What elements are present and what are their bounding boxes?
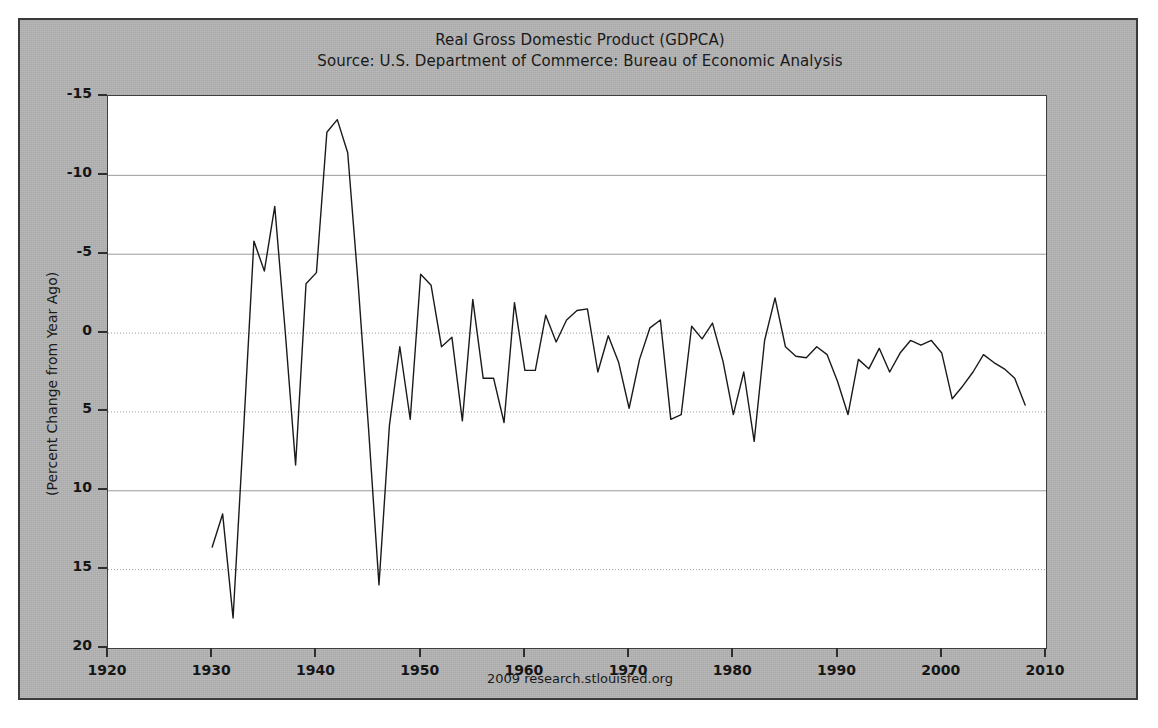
data-line-layer: [108, 96, 1046, 648]
chart-title-block: Real Gross Domestic Product (GDPCA) Sour…: [20, 30, 1140, 72]
xtick-mark-1930: [210, 648, 212, 657]
ytick-mark--10: [98, 567, 107, 569]
ytick-label-15: -10: [37, 164, 92, 180]
ytick-mark-5: [98, 331, 107, 333]
xtick-mark-1920: [106, 648, 108, 657]
ytick-label-20: -15: [37, 85, 92, 101]
data-line-real-gdp: [212, 120, 1025, 618]
xtick-mark-2000: [940, 648, 942, 657]
ytick-label-10: -5: [37, 243, 92, 259]
ytick-mark-0: [98, 409, 107, 411]
ytick-mark-20: [98, 94, 107, 96]
xtick-mark-1990: [836, 648, 838, 657]
ytick-mark-15: [98, 173, 107, 175]
chart-panel: Real Gross Domestic Product (GDPCA) Sour…: [18, 18, 1138, 700]
xtick-mark-1980: [731, 648, 733, 657]
ytick-label--15: 20: [37, 637, 92, 653]
chart-subtitle: Source: U.S. Department of Commerce: Bur…: [20, 51, 1140, 72]
xtick-mark-1970: [627, 648, 629, 657]
page-title: Real Gross Domestic Product (GDPCA): [20, 30, 1140, 51]
chart-screenshot: Real Gross Domestic Product (GDPCA) Sour…: [0, 0, 1158, 728]
chart-footer: 2009 research.stlouisfed.org: [20, 671, 1140, 686]
xtick-mark-1940: [314, 648, 316, 657]
ytick-label--10: 15: [37, 558, 92, 574]
y-axis-label: (Percent Change from Year Ago): [44, 272, 60, 496]
ytick-mark-10: [98, 252, 107, 254]
ytick-mark--5: [98, 488, 107, 490]
xtick-mark-1960: [523, 648, 525, 657]
plot-area: [107, 95, 1047, 649]
xtick-mark-2010: [1044, 648, 1046, 657]
xtick-mark-1950: [419, 648, 421, 657]
